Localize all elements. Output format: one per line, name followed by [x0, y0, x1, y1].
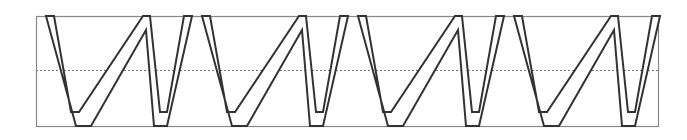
handwriting-practice-sheet: [0, 0, 687, 140]
